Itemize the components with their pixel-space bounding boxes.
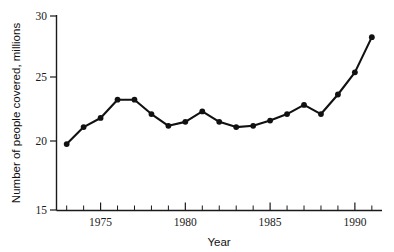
data-point-1989	[335, 92, 341, 98]
data-point-1978	[149, 111, 155, 117]
y-tick-label-25: 25	[36, 71, 48, 83]
x-tick-label-1990: 1990	[343, 216, 366, 228]
data-point-1987	[301, 102, 307, 108]
data-point-1980	[182, 119, 188, 125]
y-axis-title: Number of people covered, millions	[10, 23, 22, 204]
x-axis-ticks	[67, 203, 372, 211]
data-point-1985	[267, 118, 273, 124]
y-tick-label-30: 30	[36, 10, 48, 22]
data-point-1991	[369, 34, 375, 40]
data-point-1975	[98, 115, 104, 121]
x-tick-label-1975: 1975	[89, 216, 112, 228]
line-chart-plot: 30 25 20 15 1975 1980 1985 1990 Year Num…	[0, 0, 394, 252]
x-tick-label-1985: 1985	[259, 216, 282, 228]
data-point-1986	[284, 111, 290, 117]
data-point-1983	[233, 124, 239, 130]
data-point-1977	[132, 97, 138, 103]
data-point-1976	[115, 97, 121, 103]
chart-figure: 30 25 20 15 1975 1980 1985 1990 Year Num…	[0, 0, 394, 252]
data-point-1982	[216, 119, 222, 125]
x-tick-label-1980: 1980	[174, 216, 197, 228]
data-point-1973	[64, 141, 70, 147]
data-point-1988	[318, 111, 324, 117]
y-tick-label-20: 20	[36, 135, 48, 147]
data-series-line	[67, 37, 372, 144]
data-point-1979	[165, 123, 171, 129]
x-axis-tick-labels: 1975 1980 1985 1990	[89, 216, 367, 228]
data-series-markers	[64, 34, 375, 147]
data-point-1984	[250, 123, 256, 129]
y-axis-ticks: 30 25 20 15	[36, 10, 57, 216]
x-axis-title: Year	[207, 236, 230, 248]
data-point-1990	[352, 69, 358, 75]
y-tick-label-15: 15	[36, 204, 48, 216]
data-point-1981	[199, 109, 205, 115]
data-point-1974	[81, 124, 87, 130]
